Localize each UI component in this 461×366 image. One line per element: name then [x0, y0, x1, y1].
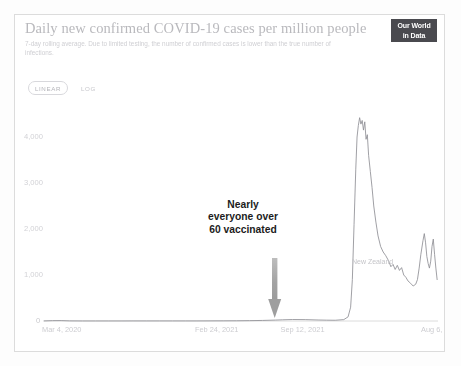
x-tick-2: Sep 12, 2021: [281, 325, 325, 334]
series-label-new-zealand: New Zealand: [352, 258, 393, 265]
y-tick-4000: 4,000: [24, 132, 43, 141]
x-tick-3: Aug 6, 2022: [421, 325, 445, 334]
annotation-text: Nearly everyone over 60 vaccinated: [191, 199, 295, 236]
y-tick-2000: 2,000: [24, 224, 43, 233]
annotation-line-1: Nearly: [191, 199, 295, 211]
chart-svg: [15, 15, 445, 352]
y-tick-1000: 1,000: [24, 270, 43, 279]
annotation-arrow-down-icon: [263, 258, 287, 320]
x-tick-1: Feb 24, 2021: [195, 325, 239, 334]
y-tick-3000: 3,000: [24, 178, 43, 187]
y-tick-0: 0: [36, 316, 40, 325]
screenshot-root: Daily new confirmed COVID-19 cases per m…: [0, 0, 461, 366]
plot-area: 4,000 3,000 2,000 1,000 0 Mar 4, 2020 Fe…: [15, 15, 445, 352]
annotation-line-2: everyone over: [191, 211, 295, 223]
annotation-line-3: 60 vaccinated: [191, 224, 295, 236]
owid-chart-card: Daily new confirmed COVID-19 cases per m…: [14, 14, 445, 352]
x-tick-0: Mar 4, 2020: [42, 325, 81, 334]
